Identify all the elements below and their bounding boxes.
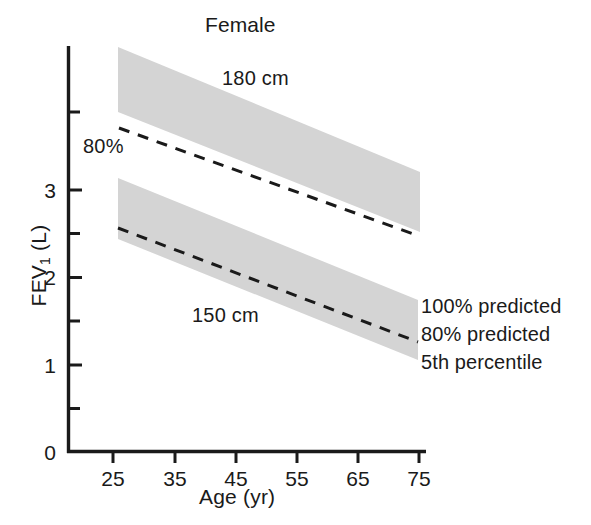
x-axis-ticks bbox=[113, 452, 419, 463]
x-tick-label-35: 35 bbox=[155, 468, 195, 489]
legend-item-100-percent-predicted: 100% predicted bbox=[421, 296, 561, 316]
x-tick-label-75: 75 bbox=[399, 468, 439, 489]
x-tick-label-45: 45 bbox=[216, 468, 256, 489]
annotation-150cm: 150 cm bbox=[192, 305, 259, 325]
x-tick-label-25: 25 bbox=[93, 468, 133, 489]
chart-title: Female bbox=[205, 14, 276, 35]
y-tick-label-3: 3 bbox=[30, 180, 56, 201]
x-tick-label-65: 65 bbox=[338, 468, 378, 489]
y-tick-label-0: 0 bbox=[30, 442, 56, 463]
x-tick-label-55: 55 bbox=[277, 468, 317, 489]
y-axis-label-subscript: 1 bbox=[37, 257, 53, 265]
y-axis-label-unit: (L) bbox=[27, 225, 50, 257]
y-tick-label-1: 1 bbox=[30, 355, 56, 376]
y-tick-label-2: 2 bbox=[30, 267, 56, 288]
chart-figure: Female FEV1 (L) Age (yr) 0 1 2 3 25 35 4… bbox=[0, 0, 591, 525]
annotation-80-percent: 80% bbox=[83, 136, 124, 156]
legend-item-5th-percentile: 5th percentile bbox=[421, 352, 542, 372]
annotation-180cm: 180 cm bbox=[222, 68, 289, 88]
chart-plot-area bbox=[0, 0, 591, 525]
legend-item-80-percent-predicted: 80% predicted bbox=[421, 324, 550, 344]
